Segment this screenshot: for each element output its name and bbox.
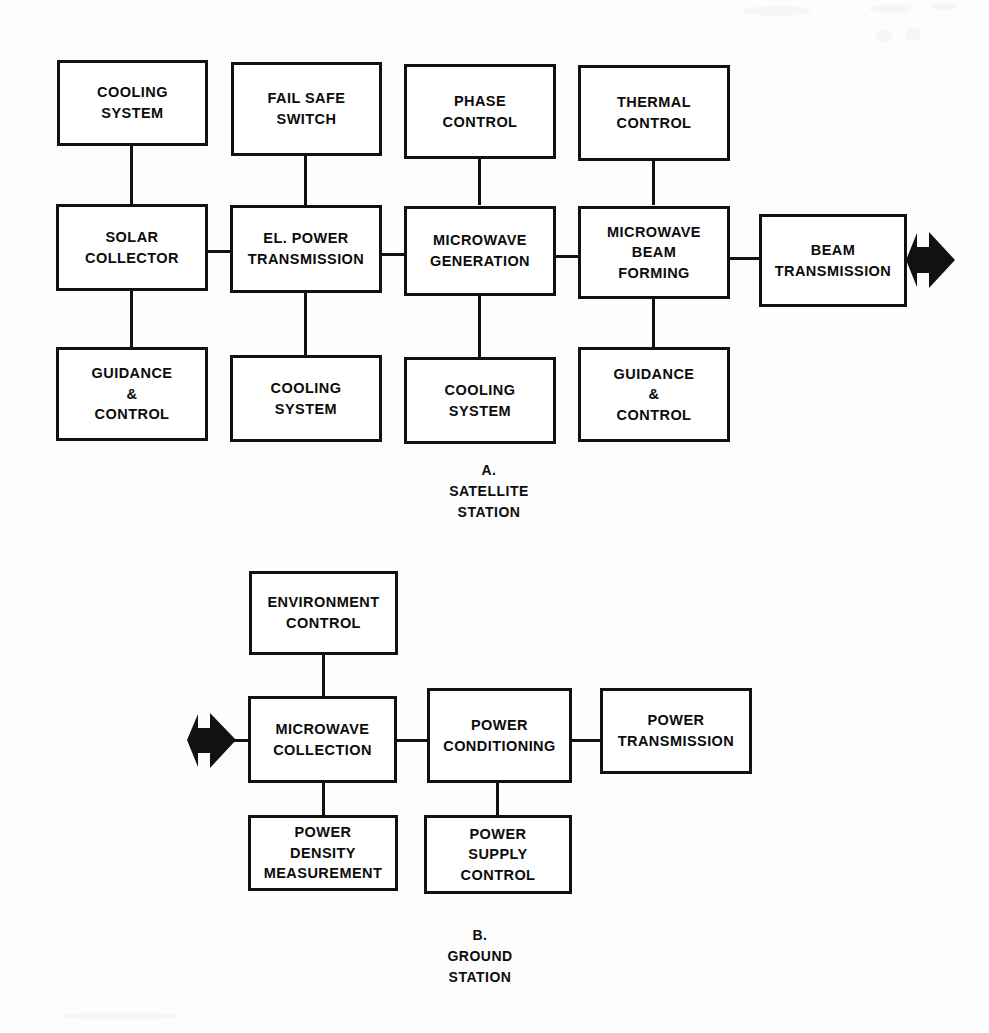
node-guidance-control-beam[interactable]: GUIDANCE & CONTROL [578, 347, 730, 442]
node-label: SOLAR COLLECTOR [81, 227, 183, 268]
scan-artifact [742, 6, 812, 16]
node-label: COOLING SYSTEM [93, 82, 172, 123]
scan-artifact [869, 4, 911, 13]
node-label: THERMAL CONTROL [613, 92, 696, 133]
node-cooling-system-solar[interactable]: COOLING SYSTEM [57, 60, 208, 146]
node-label: BEAM TRANSMISSION [771, 240, 896, 281]
block-diagram: COOLING SYSTEM FAIL SAFE SWITCH PHASE CO… [0, 0, 989, 1033]
node-power-conditioning[interactable]: POWER CONDITIONING [427, 688, 572, 783]
scan-artifact [930, 3, 956, 10]
node-microwave-generation[interactable]: MICROWAVE GENERATION [404, 206, 556, 296]
node-microwave-beam-forming[interactable]: MICROWAVE BEAM FORMING [578, 206, 730, 299]
node-power-transmission[interactable]: POWER TRANSMISSION [600, 688, 752, 774]
scan-artifact [875, 30, 893, 42]
node-environment-control[interactable]: ENVIRONMENT CONTROL [249, 571, 398, 655]
node-label: MICROWAVE GENERATION [426, 230, 534, 271]
node-label: GUIDANCE & CONTROL [610, 364, 699, 426]
scan-artifact [60, 1012, 180, 1020]
node-power-density-measurement[interactable]: POWER DENSITY MEASUREMENT [248, 815, 398, 891]
beam-out-arrow-head [906, 232, 955, 288]
node-guidance-control-solar[interactable]: GUIDANCE & CONTROL [56, 347, 208, 441]
caption-satellite-station: A. SATELLITE STATION [344, 460, 634, 523]
caption-ground-station: B. GROUND STATION [335, 925, 625, 988]
node-beam-transmission[interactable]: BEAM TRANSMISSION [759, 214, 907, 307]
node-label: FAIL SAFE SWITCH [264, 88, 350, 129]
node-label: GUIDANCE & CONTROL [88, 363, 177, 425]
node-label: POWER TRANSMISSION [614, 710, 739, 751]
node-microwave-collection[interactable]: MICROWAVE COLLECTION [248, 696, 397, 783]
node-label: EL. POWER TRANSMISSION [244, 228, 369, 269]
node-el-power-transmission[interactable]: EL. POWER TRANSMISSION [230, 205, 382, 293]
node-fail-safe-switch[interactable]: FAIL SAFE SWITCH [231, 62, 382, 156]
node-phase-control[interactable]: PHASE CONTROL [404, 64, 556, 159]
node-label: POWER CONDITIONING [439, 715, 560, 756]
beam-in-arrow-head [187, 713, 236, 768]
node-label: PHASE CONTROL [439, 91, 522, 132]
node-label: COOLING SYSTEM [267, 378, 346, 419]
node-solar-collector[interactable]: SOLAR COLLECTOR [56, 204, 208, 291]
node-label: COOLING SYSTEM [441, 380, 520, 421]
node-label: POWER DENSITY MEASUREMENT [260, 822, 387, 884]
node-cooling-system-power[interactable]: COOLING SYSTEM [230, 355, 382, 442]
scan-artifact [905, 27, 921, 41]
node-power-supply-control[interactable]: POWER SUPPLY CONTROL [424, 815, 572, 894]
node-cooling-system-microwave[interactable]: COOLING SYSTEM [404, 357, 556, 444]
node-label: POWER SUPPLY CONTROL [457, 824, 540, 886]
node-label: MICROWAVE COLLECTION [269, 719, 376, 760]
node-thermal-control[interactable]: THERMAL CONTROL [578, 65, 730, 161]
node-label: MICROWAVE BEAM FORMING [603, 222, 705, 284]
node-label: ENVIRONMENT CONTROL [263, 592, 383, 633]
